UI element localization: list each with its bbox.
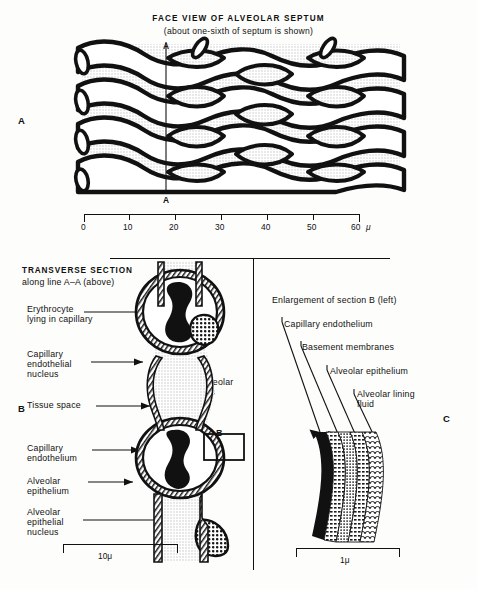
- septal-island: [168, 127, 224, 147]
- septal-island: [168, 165, 224, 182]
- septal-island: [236, 65, 292, 85]
- panel-a-scale-bar: [84, 214, 360, 222]
- scale-tick-0: 0: [81, 223, 86, 232]
- scale-unit: μ: [366, 223, 371, 232]
- scale-tick-10: 10: [123, 223, 132, 232]
- capillary-network-diagram: [60, 40, 420, 192]
- septal-island: [168, 87, 224, 107]
- lower-capillary: [136, 418, 224, 498]
- capillary-endothelial-nucleus: [190, 315, 218, 345]
- scale-tick-50: 50: [307, 223, 316, 232]
- panel-c-scale-label: 1μ: [340, 556, 349, 565]
- panel-b-scale-label: 10μ: [98, 552, 112, 561]
- leader-alveolar-epithelium: [327, 370, 356, 436]
- upper-capillary: [136, 270, 224, 354]
- panel-b-scale-bar: [63, 544, 178, 552]
- septal-island: [236, 145, 292, 165]
- septal-island: [308, 165, 364, 182]
- scale-tick-60: 60: [351, 223, 360, 232]
- septal-island: [308, 87, 364, 107]
- panel-a-letter: A: [18, 116, 25, 127]
- alveolar-septum-cross-section: [128, 262, 246, 562]
- septal-island: [236, 105, 292, 125]
- blood-gas-barrier-layers: [310, 430, 396, 542]
- section-line-label-bottom: A: [163, 196, 169, 205]
- leader-basement-membranes: [301, 346, 338, 434]
- septal-island: [308, 127, 364, 147]
- detail-box-letter: B: [216, 428, 223, 438]
- panel-a-title: FACE VIEW OF ALVEOLAR SEPTUM: [0, 14, 477, 23]
- scale-tick-40: 40: [261, 223, 270, 232]
- panel-a-subtitle: (about one-sixth of septum is shown): [0, 27, 477, 37]
- scale-tick-30: 30: [215, 223, 224, 232]
- septal-island: [308, 51, 364, 68]
- figure-alveolar-septum: FACE VIEW OF ALVEOLAR SEPTUM (about one-…: [0, 0, 477, 589]
- section-line-label-top: A: [163, 42, 169, 51]
- scale-tick-20: 20: [169, 223, 178, 232]
